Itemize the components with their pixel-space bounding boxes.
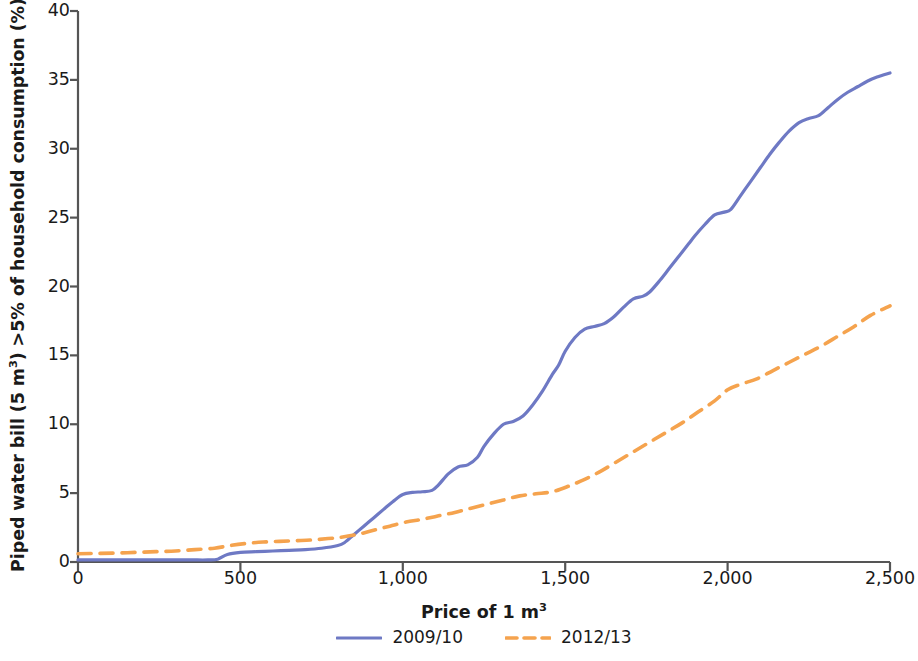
x-axis-tick-label: 0 (72, 568, 83, 588)
series-line-2012-13 (78, 306, 890, 554)
series-line-2009-10 (78, 73, 890, 560)
data-series (78, 73, 890, 560)
plot-area (0, 0, 918, 661)
legend-item[interactable]: 2012/13 (505, 629, 632, 646)
x-axis-tick-label: 1,000 (378, 568, 428, 588)
x-axis-tick-label: 2,500 (865, 568, 915, 588)
x-axis-tick-label: 1,500 (540, 568, 590, 588)
legend-label: 2012/13 (561, 629, 632, 646)
legend-item[interactable]: 2009/10 (336, 629, 463, 646)
legend-label: 2009/10 (392, 629, 463, 646)
x-axis-title: Price of 1 m3 (78, 600, 890, 622)
x-axis-tick-label: 500 (224, 568, 257, 588)
legend-swatch-dashed (505, 632, 551, 644)
chart-figure: Piped water bill (5 m3) >5% of household… (0, 0, 918, 661)
axes (70, 11, 890, 571)
legend-swatch-solid (336, 632, 382, 644)
x-axis-title-superscript: 3 (539, 600, 547, 614)
x-axis-tick-label: 2,000 (703, 568, 753, 588)
chart-legend: 2009/102012/13 (78, 629, 890, 646)
